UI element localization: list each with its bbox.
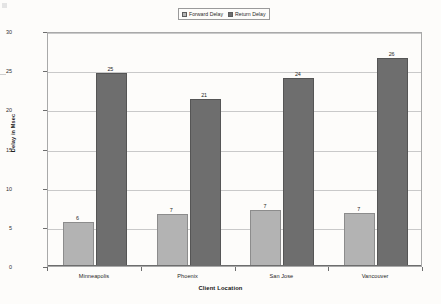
x-tick-label-san-jose: San Jose bbox=[235, 273, 329, 280]
bar-vancouver-forward-delay bbox=[344, 213, 375, 266]
x-tick-mark-0 bbox=[47, 267, 48, 271]
y-tick-label-10: 10 bbox=[0, 186, 12, 192]
bar-value-san-jose-forward-delay: 7 bbox=[253, 203, 277, 209]
bar-minneapolis-forward-delay bbox=[63, 222, 94, 266]
x-tick-label-minneapolis: Minneapolis bbox=[47, 273, 141, 280]
y-tick-label-15: 15 bbox=[0, 147, 12, 153]
x-axis-line bbox=[48, 265, 421, 266]
bar-phoenix-forward-delay bbox=[157, 214, 188, 266]
legend-swatch-return-delay bbox=[228, 12, 233, 17]
x-tick-mark-3 bbox=[328, 267, 329, 271]
legend-entry-return-delay: Return Delay bbox=[228, 11, 266, 17]
chart-legend: Forward Delay Return Delay bbox=[178, 8, 270, 20]
bar-minneapolis-return-delay bbox=[96, 73, 127, 266]
bar-value-phoenix-return-delay: 21 bbox=[192, 92, 216, 98]
bar-chart: Forward Delay Return Delay Delay in Msec… bbox=[0, 0, 441, 304]
legend-label-forward-delay: Forward Delay bbox=[189, 11, 223, 17]
y-tick-label-5: 5 bbox=[0, 225, 12, 231]
legend-entry-forward-delay: Forward Delay bbox=[182, 11, 223, 17]
x-tick-label-phoenix: Phoenix bbox=[141, 273, 235, 280]
bar-phoenix-return-delay bbox=[190, 99, 221, 266]
y-tick-label-0: 0 bbox=[0, 264, 12, 270]
bar-value-san-jose-return-delay: 24 bbox=[286, 71, 310, 77]
y-tick-label-30: 30 bbox=[0, 29, 12, 35]
y-tick-label-20: 20 bbox=[0, 107, 12, 113]
bar-san-jose-forward-delay bbox=[250, 210, 281, 266]
bar-value-phoenix-forward-delay: 7 bbox=[159, 207, 183, 213]
bar-value-vancouver-return-delay: 26 bbox=[380, 51, 404, 57]
gridline-30 bbox=[48, 33, 421, 34]
x-axis-title: Client Location bbox=[0, 285, 441, 291]
x-tick-label-vancouver: Vancouver bbox=[328, 273, 422, 280]
bar-value-minneapolis-forward-delay: 6 bbox=[65, 215, 89, 221]
bar-value-vancouver-forward-delay: 7 bbox=[347, 206, 371, 212]
x-tick-mark-1 bbox=[141, 267, 142, 271]
legend-swatch-forward-delay bbox=[182, 12, 187, 17]
bar-value-minneapolis-return-delay: 25 bbox=[98, 66, 122, 72]
bar-san-jose-return-delay bbox=[283, 78, 314, 266]
scan-artifact-corner bbox=[2, 3, 7, 8]
x-tick-mark-2 bbox=[235, 267, 236, 271]
x-tick-mark-4 bbox=[422, 267, 423, 271]
bar-vancouver-return-delay bbox=[377, 58, 408, 266]
legend-label-return-delay: Return Delay bbox=[235, 11, 266, 17]
y-tick-label-25: 25 bbox=[0, 68, 12, 74]
